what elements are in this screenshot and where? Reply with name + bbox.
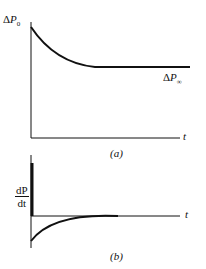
pressure-decay-curve xyxy=(31,27,190,67)
dp-dt-numerator: dP xyxy=(15,184,29,197)
delta-p0-label: ΔP0 xyxy=(3,14,20,25)
panel-b xyxy=(31,155,180,248)
panel-b-caption: (b) xyxy=(110,251,123,262)
dp-dt-denominator: dt xyxy=(15,197,29,209)
dp-dt-label: dP dt xyxy=(15,184,29,209)
diagram-canvas xyxy=(0,0,206,269)
time-axis-label-b: t xyxy=(185,209,188,220)
panel-a-caption: (a) xyxy=(110,148,123,159)
delta-p-infinity-label: ΔP∞ xyxy=(163,72,182,83)
time-axis-label-a: t xyxy=(183,131,186,142)
derivative-curve xyxy=(31,216,118,241)
